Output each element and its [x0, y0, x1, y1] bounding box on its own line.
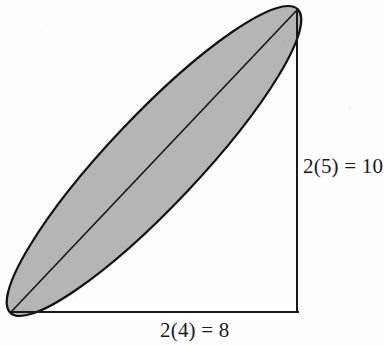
horizontal-leg-label: 2(4) = 8 — [160, 317, 229, 343]
shaded-ellipse-group — [0, 0, 330, 344]
vertical-leg-label: 2(5) = 10 — [303, 153, 383, 179]
figure-canvas: 2(5) = 10 2(4) = 8 — [0, 0, 384, 346]
hypotenuse-line — [11, 10, 297, 312]
shaded-ellipse — [0, 0, 330, 344]
